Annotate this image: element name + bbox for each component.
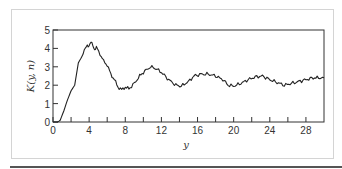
x-tick-label: 28: [300, 125, 312, 136]
x-axis: 0481216202428: [50, 117, 312, 136]
y-tick-label: 5: [44, 25, 50, 36]
y-axis: 012345: [44, 25, 58, 128]
y-tick-label: 1: [44, 99, 50, 110]
x-tick-label: 12: [156, 125, 168, 136]
y-axis-label: K(y, n): [25, 60, 36, 93]
x-tick-label: 0: [50, 125, 56, 136]
y-tick-label: 3: [44, 62, 50, 73]
x-tick-label: 24: [264, 125, 276, 136]
y-tick-label: 0: [44, 117, 50, 128]
y-tick-label: 2: [44, 80, 50, 91]
x-axis-label: y: [182, 139, 189, 150]
y-tick-label: 4: [44, 43, 50, 54]
x-tick-label: 8: [122, 125, 128, 136]
x-tick-label: 16: [192, 125, 204, 136]
x-tick-label: 20: [228, 125, 240, 136]
plot-area: [53, 30, 324, 122]
series-line-k: [53, 42, 324, 122]
line-chart: 0481216202428 012345 y K(y, n): [0, 0, 342, 169]
x-tick-label: 4: [86, 125, 92, 136]
